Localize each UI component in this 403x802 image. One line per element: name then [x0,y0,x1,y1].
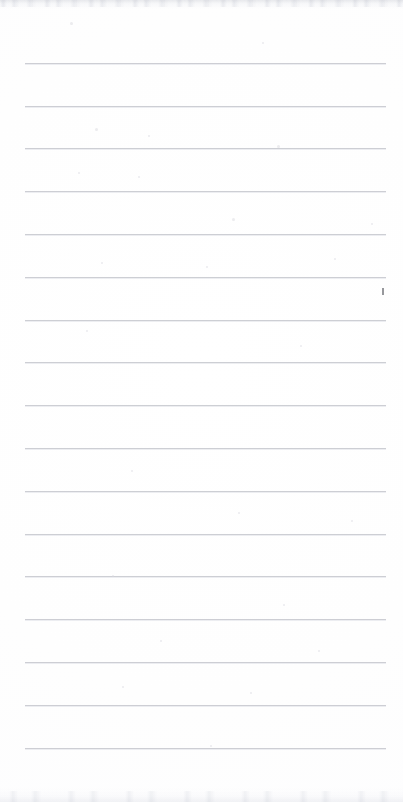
rule-line [25,234,386,235]
paper-speck [318,650,320,652]
rule-line [25,491,386,492]
rule-line [25,405,386,406]
rule-line [25,277,386,278]
paper-speck [300,345,302,347]
rule-line [25,191,386,192]
rule-line [25,534,386,535]
paper-speck [101,262,103,264]
ink-speck [382,288,384,295]
paper-speck [238,512,240,514]
paper-speck [283,604,285,606]
paper-speck [131,470,133,472]
paper-speck [148,135,150,137]
paper-speck [250,692,252,694]
paper-speck [86,330,88,332]
paper-speck [277,145,280,148]
rule-line [25,576,386,577]
paper-speck [70,22,73,25]
paper-speck [78,172,80,174]
rule-line [25,63,386,64]
rule-line [25,448,386,449]
paper-speck [160,640,162,642]
paper-speck [351,520,353,522]
rule-line [25,106,386,107]
scan-edge-top-noise [0,0,403,7]
scanned-page [0,0,403,802]
rule-line [25,705,386,706]
paper-speck [138,176,140,178]
paper-speck [95,128,98,131]
rule-line [25,619,386,620]
paper-speck [371,223,373,225]
paper-speck [262,42,264,44]
paper-surface [0,0,403,802]
paper-speck [112,575,114,577]
paper-speck [210,745,212,747]
paper-speck [232,218,235,221]
paper-speck [334,258,336,260]
rule-line [25,148,386,149]
paper-speck [122,686,124,688]
paper-speck [206,266,208,268]
rule-line [25,748,386,749]
rule-line [25,662,386,663]
scan-edge-bottom-noise [0,791,403,802]
rule-line [25,362,386,363]
rule-line [25,320,386,321]
